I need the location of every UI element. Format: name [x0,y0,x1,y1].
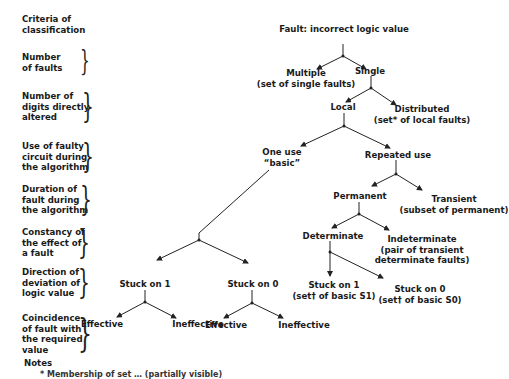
node-one-use: One use “basic” [262,147,301,168]
node-multiple: Multiple (set of single faults) [257,68,355,89]
criteria-direction-of-deviation: Direction of deviation of logic value [22,267,80,299]
node-s1-effective: Effective [81,319,123,330]
footnote: * Membership of set … (partially visible… [40,370,222,379]
node-single: Single [355,66,385,77]
brace-icon: } [78,224,90,258]
criteria-coincidence: Coincidence of fault with the required v… [22,313,83,355]
criteria-use-of-faulty-circuit: Use of faulty circuit during the algorit… [22,141,88,173]
node-s0-ineffective: Ineffective [278,320,330,331]
brace-icon: } [80,181,92,215]
node-transient: Transient (subset of permanent) [399,194,508,215]
brace-icon: } [82,88,94,122]
criteria-heading: Criteria of classification [22,14,85,35]
criteria-constancy-of-effect: Constancy of the effect of a fault [22,227,85,259]
node-basic-stuck-on-1: Stuck on 1 [119,279,170,290]
node-distributed: Distributed (set* of local faults) [374,104,471,125]
criteria-digits-altered: Number of digits directly altered [22,91,89,123]
node-det-stuck-on-0: Stuck on 0 (set† of basic S0) [378,284,461,305]
node-determinate: Determinate [303,231,364,242]
node-permanent: Permanent [333,191,386,202]
brace-icon: } [78,312,92,352]
node-root: Fault: incorrect logic value [279,24,409,35]
criteria-number-of-faults: Number of faults [22,52,62,73]
node-basic-stuck-on-0: Stuck on 0 [227,279,278,290]
notes-label: Notes [24,358,52,369]
brace-icon: } [80,47,90,75]
brace-icon: } [82,138,94,172]
node-s0-effective: Effective [205,320,247,331]
node-det-stuck-on-1: Stuck on 1 (set† of basic S1) [292,280,375,301]
node-indeterminate: Indeterminate (pair of transient determi… [375,234,470,266]
node-repeated-use: Repeated use [365,150,431,161]
criteria-duration-of-fault: Duration of fault during the algorithm [22,184,88,216]
brace-icon: } [78,264,90,298]
node-local: Local [330,102,355,113]
